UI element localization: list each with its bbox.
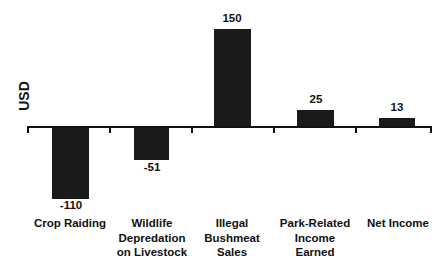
bar-illegal-bushmeat-sales [214,29,251,127]
bar-park-related-income [297,110,334,127]
axis-tick [109,128,111,133]
category-label-line: Earned [263,245,367,260]
category-label-line: Net Income [351,216,445,231]
axis-tick [355,128,357,133]
axis-tick [191,128,193,133]
category-label-net-income: Net Income [351,216,445,231]
value-label-illegal-bushmeat-sales: 150 [201,12,263,24]
axis-tick [273,128,275,133]
x-axis-category-labels: Crop Raiding Wildlife Depredation on Liv… [0,216,445,276]
value-label-crop-raiding: -110 [40,199,102,211]
value-label-park-related-income: 25 [285,93,347,105]
bar-wildlife-depredation [134,127,169,160]
bar-chart: USD -110 -51 150 25 13 Crop Raiding Wild… [0,0,445,276]
value-label-wildlife-depredation: -51 [121,161,183,173]
axis-tick [27,128,29,133]
bar-crop-raiding [52,127,89,199]
x-axis-baseline [27,126,432,128]
axis-tick [430,128,432,133]
category-label-line: Income [263,231,367,246]
plot-area: -110 -51 150 25 13 [0,0,445,215]
value-label-net-income: 13 [366,101,428,113]
